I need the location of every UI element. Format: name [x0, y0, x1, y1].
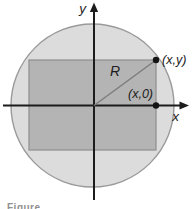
point-x0-label: (x,0) [128, 87, 153, 101]
point-xy-dot [153, 57, 159, 63]
point-xy-label: (x,y) [162, 53, 186, 67]
y-axis-label: y [78, 1, 87, 16]
figure-page: y x R (x,y) (x,0) Figure [0, 0, 193, 209]
point-x0-dot [153, 102, 159, 108]
figure-caption: Figure [7, 202, 41, 209]
x-axis-arrowhead-icon [180, 101, 190, 109]
y-axis-arrowhead-icon [90, 3, 98, 13]
x-axis-label: x [171, 109, 180, 124]
circle-rectangle-diagram: y x R (x,y) (x,0) [0, 0, 193, 209]
radius-label: R [110, 63, 120, 79]
